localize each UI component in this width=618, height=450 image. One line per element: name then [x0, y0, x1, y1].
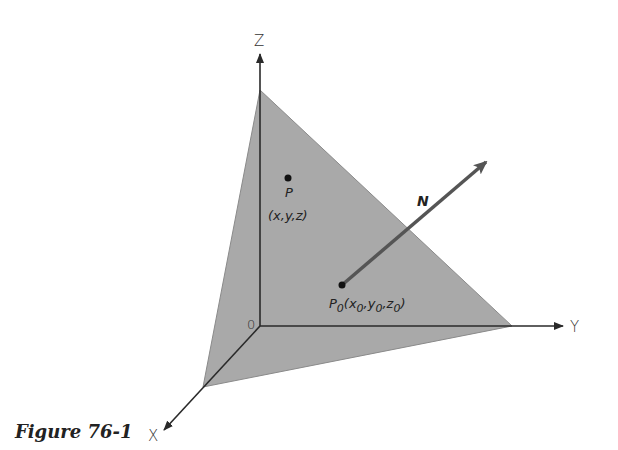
plane-normal-diagram: Z Y X 0 N P (x,y,z) P0(x0,y0,z0) — [0, 0, 618, 450]
point-p0-subscript: 0 — [337, 302, 344, 315]
x-axis-label: X — [148, 427, 158, 445]
point-p0-coords-x: (x — [344, 296, 357, 311]
point-p0-coords-y-sub: 0 — [375, 302, 382, 315]
point-p0-dot — [339, 282, 346, 289]
z-axis-label: Z — [254, 32, 264, 50]
point-p0-coords-z-sub: 0 — [393, 302, 400, 315]
point-p-label: P — [285, 185, 293, 200]
figure-caption: Figure 76-1 — [15, 421, 133, 442]
point-p0-coords-x-sub: 0 — [357, 302, 364, 315]
point-p-dot — [285, 175, 292, 182]
point-p0-coords-y: ,y — [364, 296, 376, 311]
normal-vector-label: N — [417, 193, 429, 209]
point-p0-name: P — [329, 296, 337, 311]
y-axis-label: Y — [570, 318, 579, 336]
point-p0-coords-close: ) — [399, 296, 405, 311]
plane-triangle — [203, 90, 512, 387]
origin-label: 0 — [247, 317, 255, 332]
point-p-coords: (x,y,z) — [268, 208, 308, 223]
